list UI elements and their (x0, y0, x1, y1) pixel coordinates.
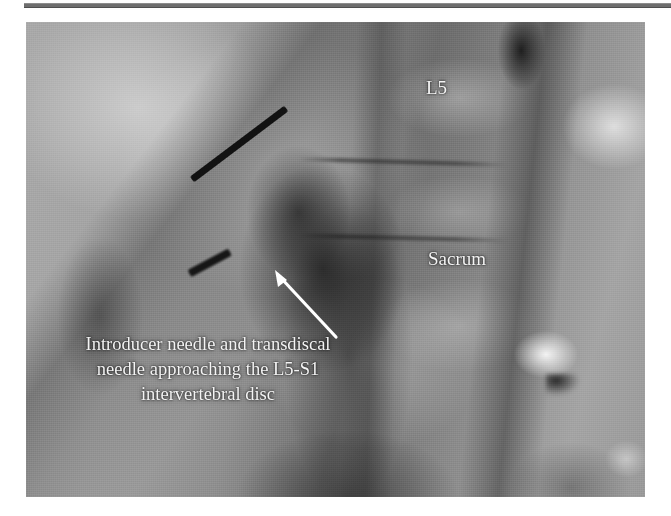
caption-line-1: Introducer needle and transdiscal (46, 332, 370, 357)
anatomy-label-sacrum: Sacrum (428, 249, 486, 269)
figure-caption: Introducer needle and transdiscal needle… (46, 332, 370, 407)
caption-line-3: intervertebral disc (46, 382, 370, 407)
leader-arrow-icon (241, 242, 341, 342)
anatomy-label-l5: L5 (426, 78, 447, 98)
caption-line-2: needle approaching the L5-S1 (46, 357, 370, 382)
horizontal-divider-rule (24, 3, 671, 8)
fluoroscopic-spine-image: L5 Sacrum Introducer needle and transdis… (26, 22, 645, 497)
